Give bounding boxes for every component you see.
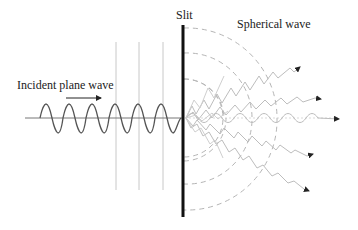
spherical-wave-label: Spherical wave <box>237 18 311 30</box>
diffracted-ray-2 <box>186 97 321 120</box>
slit-label: Slit <box>176 9 193 21</box>
diffraction-diagram: Slit Spherical wave Incident plane wave <box>0 0 358 230</box>
diagram-canvas <box>0 0 358 230</box>
incident-plane-wave-label: Incident plane wave <box>17 79 114 91</box>
slit-barrier <box>182 25 185 217</box>
diffracted-waves <box>186 67 339 191</box>
